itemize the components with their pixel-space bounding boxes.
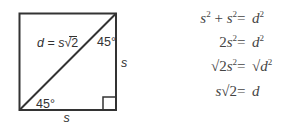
equation-1: s2 + s2 = d2	[0, 11, 295, 29]
side-bottom-label: s	[64, 111, 70, 125]
equation-4: s√2 = d	[0, 84, 295, 102]
radical-sign: √	[221, 83, 229, 99]
equation-2: 2s2 = d2	[0, 35, 295, 53]
equation-1-rhs: d2	[252, 11, 264, 26]
equation-3-rhs: √d2	[252, 59, 272, 74]
equation-1-equals: =	[237, 11, 245, 26]
equation-3: √2s2 = √d2	[0, 59, 295, 77]
radical-sign: √	[211, 58, 219, 74]
equation-4-lhs: s√2	[215, 84, 237, 99]
equation-4-equals: =	[237, 84, 245, 99]
equation-3-equals: =	[237, 59, 245, 74]
equation-1-lhs: s2 + s2	[200, 11, 237, 26]
equation-2-rhs: d2	[252, 35, 264, 50]
equation-3-lhs: √2s2	[211, 59, 237, 74]
radical-sign: √	[252, 58, 260, 74]
equation-4-rhs: d	[252, 84, 260, 99]
equation-2-lhs: 2s2	[219, 35, 237, 50]
equation-2-equals: =	[237, 35, 245, 50]
